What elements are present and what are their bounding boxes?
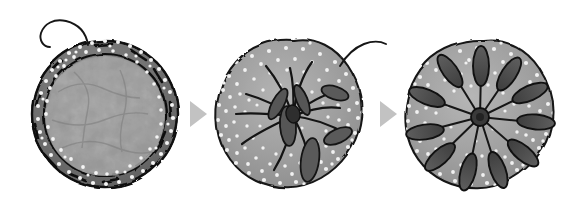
stage-panel-2: Stage 2 Amoeboid cell densely filled wit…: [190, 0, 380, 204]
stage-2-illustration: [190, 0, 380, 204]
stage-3-illustration: [380, 0, 575, 204]
stage-1-flagellum: [40, 20, 88, 47]
stage-panel-1: Stage 1 Spherical cell with flagellum an…: [0, 0, 190, 204]
stage-panel-3: Stage 3 Rounded granular cell containing…: [380, 0, 575, 204]
cell-stage-figure: Cell developmental stage series Three-st…: [0, 0, 575, 204]
stage-1-illustration: [0, 0, 190, 204]
stage-3-central-hub: [471, 108, 489, 126]
